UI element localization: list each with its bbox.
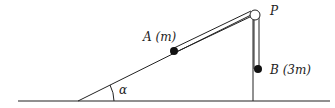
string-incline-lower <box>176 16 252 52</box>
mass-b-label: B (3m) <box>269 63 311 77</box>
pulley-incline-diagram: P A (m) B (3m) α <box>0 0 335 108</box>
mass-a-label: A (m) <box>142 30 177 44</box>
mass-b <box>254 65 262 73</box>
string-incline-upper <box>174 11 251 48</box>
angle-arc <box>110 85 114 101</box>
angle-label: α <box>119 83 127 97</box>
mass-a <box>170 47 178 55</box>
pulley-label: P <box>269 4 279 18</box>
pulley-icon <box>250 10 260 20</box>
incline-surface <box>78 15 251 101</box>
